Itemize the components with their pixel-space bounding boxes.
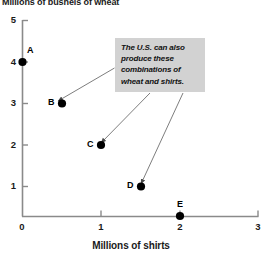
x-axis-title: Millions of shirts bbox=[0, 240, 262, 251]
x-tick-label-3: 3 bbox=[250, 221, 262, 232]
annotation-arrow-to-b bbox=[58, 68, 115, 101]
point-label-a: A bbox=[27, 45, 34, 55]
annotation-arrow-to-d bbox=[141, 93, 183, 184]
y-tick-label-4: 4 bbox=[2, 56, 16, 67]
annotation-line-3: combinations of bbox=[121, 64, 200, 75]
annotation-line-4: wheat and shirts. bbox=[121, 76, 200, 87]
x-tick-label-2: 2 bbox=[172, 221, 188, 232]
annotation-arrow-to-c bbox=[101, 93, 150, 143]
annotation-line-1: The U.S. can also bbox=[121, 42, 200, 53]
point-label-b: B bbox=[48, 97, 55, 107]
annotation-line-2: produce these bbox=[121, 53, 200, 64]
y-tick-label-1: 1 bbox=[2, 180, 16, 191]
y-tick-label-5: 5 bbox=[2, 14, 16, 25]
data-point-b bbox=[58, 99, 66, 107]
data-point-a bbox=[18, 58, 26, 66]
point-label-e: E bbox=[177, 199, 183, 209]
data-point-c bbox=[97, 141, 105, 149]
y-tick-label-2: 2 bbox=[2, 139, 16, 150]
point-label-d: D bbox=[127, 180, 134, 190]
y-tick-label-3: 3 bbox=[2, 97, 16, 108]
chart-container: Millions of bushels of wheat 5 bbox=[0, 0, 262, 256]
data-point-d bbox=[137, 182, 145, 190]
x-tick-label-0: 0 bbox=[14, 221, 30, 232]
point-label-c: C bbox=[87, 139, 94, 149]
annotation-callout: The U.S. can also produce these combinat… bbox=[115, 38, 205, 92]
data-point-e bbox=[176, 212, 184, 220]
x-tick-label-1: 1 bbox=[93, 221, 109, 232]
